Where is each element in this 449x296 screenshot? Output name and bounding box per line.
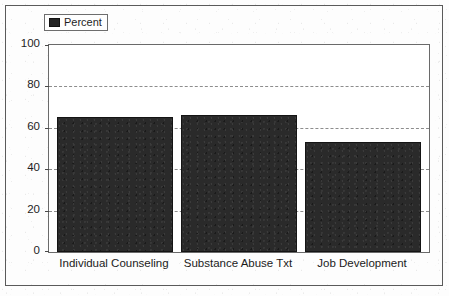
x-label-substance-abuse-txt: Substance Abuse Txt [184, 258, 292, 270]
y-tick-80: 80 [10, 80, 40, 92]
x-axis-category-labels: Individual Counseling Substance Abuse Tx… [48, 258, 428, 278]
chart-legend: Percent [44, 14, 108, 31]
legend-swatch-percent [49, 18, 60, 27]
x-label-individual-counseling: Individual Counseling [59, 258, 168, 270]
bar-job-development [305, 142, 421, 252]
y-tick-60: 60 [10, 121, 40, 133]
bar-series-percent [49, 45, 429, 252]
y-tick-0: 0 [10, 245, 40, 257]
legend-label-percent: Percent [64, 17, 102, 28]
bar-individual-counseling [57, 117, 173, 252]
y-axis-tick-labels: 100 80 60 40 20 0 [8, 44, 40, 251]
bar-chart-figure: Percent 100 80 60 40 20 0 Individual Cou… [0, 0, 449, 296]
y-tick-40: 40 [10, 162, 40, 174]
plot-area [48, 44, 430, 253]
x-label-job-development: Job Development [317, 258, 407, 270]
bar-substance-abuse-txt [181, 115, 297, 252]
y-tick-100: 100 [10, 38, 40, 50]
y-tick-20: 20 [10, 204, 40, 216]
